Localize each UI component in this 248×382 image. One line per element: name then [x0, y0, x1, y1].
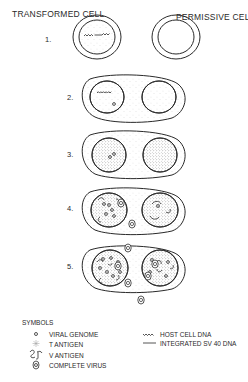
legend-host-cell-dna-label: HOST CELL DNA	[160, 331, 211, 338]
legend-complete-virus-label: COMPLETE VIRUS	[49, 362, 106, 369]
step-2-heterokaryon	[82, 75, 185, 123]
legend-t-antigen-label: T ANTIGEN	[49, 341, 83, 348]
step-3-heterokaryon	[82, 131, 185, 179]
t-antigen-icon	[33, 340, 40, 347]
complete-virus-icon	[33, 361, 39, 369]
step-4-heterokaryon	[82, 188, 185, 235]
host-cell-dna-icon	[143, 334, 154, 336]
viral-genome-icon	[35, 333, 38, 336]
v-antigen-icon	[30, 350, 42, 359]
step-1-permissive-cell	[152, 15, 200, 59]
legend-integrated-sv40-dna-label: INTEGRATED SV 40 DNA	[160, 340, 236, 347]
legend-title: SYMBOLS	[22, 319, 53, 326]
legend-viral-genome-label: VIRAL GENOME	[49, 331, 98, 338]
step-1-transformed-cell	[73, 15, 121, 59]
step-5-heterokaryon	[82, 244, 185, 293]
released-virus	[138, 296, 144, 304]
legend-v-antigen-label: V ANTIGEN	[49, 352, 84, 359]
